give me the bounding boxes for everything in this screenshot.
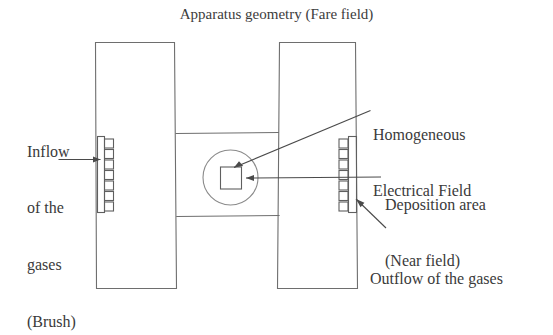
label-outflow-of-gases: Outflow of the gases <box>370 232 503 326</box>
label-inflow-of-gases: Inflow of the gases (Brush) <box>27 105 76 335</box>
label-deposition-area-line-1: Deposition area <box>385 196 486 215</box>
outflow-brush-bar <box>349 137 357 213</box>
inflow-brush-bristle <box>105 160 114 169</box>
inflow-brush-bristle <box>105 150 114 159</box>
label-homogeneous-field-line-1: Homogeneous <box>373 126 471 145</box>
right-electrode-plate <box>278 43 358 289</box>
outflow-brush-bristle <box>339 160 348 169</box>
label-inflow-line-1: Inflow <box>27 143 76 162</box>
homogeneous-field-leader-arrow <box>234 111 371 168</box>
channel-top-edge <box>176 133 280 134</box>
deposition-area-square <box>221 167 242 189</box>
inflow-brush-bristle <box>105 181 114 190</box>
inflow-brush-bristle <box>105 202 114 211</box>
outflow-brush-bristle <box>339 139 348 148</box>
channel-bottom-edge <box>176 216 279 217</box>
outflow-brush-bristle <box>339 150 348 159</box>
inflow-brush-bristle <box>105 139 114 148</box>
label-outflow-line-1: Outflow of the gases <box>370 270 503 289</box>
deposition-area-leader-arrow <box>246 175 381 181</box>
outflow-brush-bristle <box>339 181 348 190</box>
inflow-brush-bristle <box>105 171 114 180</box>
inflow-brush-bristle <box>105 192 114 201</box>
figure-title: Apparatus geometry (Fare field) <box>0 6 553 24</box>
label-inflow-line-4: (Brush) <box>27 313 76 332</box>
outflow-brush-bristle <box>339 192 348 201</box>
label-inflow-line-3: gases <box>27 256 76 275</box>
outflow-brush-bristle <box>339 171 348 180</box>
label-inflow-line-2: of the <box>27 199 76 218</box>
left-electrode-plate <box>96 43 177 289</box>
outflow-brush-bristle <box>339 202 348 211</box>
inflow-brush-bar <box>98 137 105 213</box>
